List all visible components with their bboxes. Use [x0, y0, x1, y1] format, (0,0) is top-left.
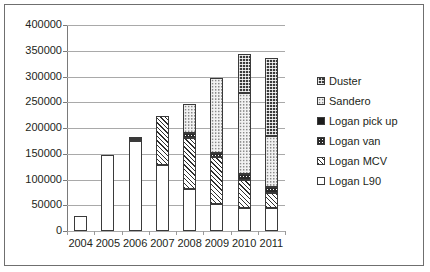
bar-segment-logan-l90[interactable] — [101, 155, 114, 231]
bar-segment-logan-l90[interactable] — [156, 165, 169, 231]
bar-2005[interactable] — [101, 155, 114, 231]
legend-item-logan-l90[interactable]: Logan L90 — [317, 171, 427, 191]
y-tick-mark — [63, 128, 67, 129]
legend-item-logan-van[interactable]: Logan van — [317, 131, 427, 151]
legend-swatch-icon — [317, 137, 325, 145]
y-tick-mark — [63, 25, 67, 26]
y-tick-mark — [63, 102, 67, 103]
x-tick-mark — [67, 231, 68, 235]
x-tick-mark — [94, 231, 95, 235]
legend-swatch-icon — [317, 77, 325, 85]
y-axis-tick-label: 150000 — [25, 148, 62, 159]
gridline — [67, 180, 285, 181]
bar-segment-logan-mcv[interactable] — [183, 138, 196, 188]
bar-segment-logan-van[interactable] — [238, 174, 251, 179]
legend-swatch-icon — [317, 157, 325, 165]
bar-2007[interactable] — [156, 116, 169, 231]
bar-2006[interactable] — [129, 138, 142, 231]
gridline — [67, 205, 285, 206]
gridline — [67, 25, 285, 26]
gridline — [67, 102, 285, 103]
bar-2011[interactable] — [265, 58, 278, 231]
legend-swatch-icon — [317, 177, 325, 185]
y-tick-mark — [63, 154, 67, 155]
legend-label: Logan pick up — [329, 115, 398, 127]
y-axis-labels: 4000003500003000002500002000001500001000… — [5, 5, 62, 251]
bar-2008[interactable] — [183, 104, 196, 231]
gridline — [67, 154, 285, 155]
y-axis-tick-label: 50000 — [31, 199, 62, 210]
bar-segment-logan-van[interactable] — [210, 153, 223, 157]
x-tick-mark — [203, 231, 204, 235]
y-tick-mark — [63, 77, 67, 78]
bar-segment-logan-l90[interactable] — [74, 216, 87, 231]
bar-segment-logan-mcv[interactable] — [238, 180, 251, 208]
legend-swatch-icon — [317, 117, 325, 125]
bar-segment-logan-l90[interactable] — [183, 189, 196, 231]
x-tick-mark — [149, 231, 150, 235]
legend-item-duster[interactable]: Duster — [317, 71, 427, 91]
legend-item-logan-pick-up[interactable]: Logan pick up — [317, 111, 427, 131]
plot-area — [67, 25, 285, 231]
bar-segment-logan-mcv[interactable] — [265, 193, 278, 207]
y-tick-mark — [63, 180, 67, 181]
bar-segment-sandero[interactable] — [210, 78, 223, 153]
bar-segment-logan-l90[interactable] — [210, 204, 223, 231]
bar-segment-sandero[interactable] — [238, 93, 251, 174]
legend-item-sandero[interactable]: Sandero — [317, 91, 427, 111]
gridline — [67, 51, 285, 52]
bar-segment-logan-mcv[interactable] — [129, 139, 142, 141]
y-axis-tick-label: 200000 — [25, 122, 62, 133]
legend-label: Sandero — [329, 95, 371, 107]
chart-legend: DusterSanderoLogan pick upLogan vanLogan… — [317, 71, 427, 191]
bar-2010[interactable] — [238, 54, 251, 231]
bar-segment-logan-l90[interactable] — [238, 208, 251, 231]
y-axis-tick-label: 350000 — [25, 45, 62, 56]
legend-item-logan-mcv[interactable]: Logan MCV — [317, 151, 427, 171]
bar-segment-sandero[interactable] — [265, 136, 278, 187]
bar-segment-logan-mcv[interactable] — [156, 116, 169, 165]
bar-segment-sandero[interactable] — [183, 104, 196, 133]
bar-segment-logan-van[interactable] — [265, 187, 278, 193]
y-axis-tick-label: 300000 — [25, 71, 62, 82]
x-tick-mark — [176, 231, 177, 235]
y-axis-tick-label: 0 — [56, 225, 62, 236]
x-tick-mark — [122, 231, 123, 235]
y-axis-tick-label: 400000 — [25, 19, 62, 30]
bar-segment-duster[interactable] — [265, 58, 278, 136]
bar-segment-duster[interactable] — [238, 54, 251, 93]
x-axis-tick-label: 2011 — [255, 237, 287, 249]
bar-segment-duster[interactable] — [129, 137, 142, 139]
bar-segment-logan-l90[interactable] — [265, 208, 278, 231]
legend-label: Logan van — [329, 135, 380, 147]
bar-segment-logan-mcv[interactable] — [210, 157, 223, 204]
legend-label: Logan L90 — [329, 175, 381, 187]
gridline — [67, 77, 285, 78]
bar-segment-logan-van[interactable] — [183, 133, 196, 138]
legend-swatch-icon — [317, 97, 325, 105]
bar-2009[interactable] — [210, 78, 223, 231]
bar-segment-logan-l90[interactable] — [129, 141, 142, 231]
bar-2004[interactable] — [74, 216, 87, 231]
y-axis-tick-label: 100000 — [25, 174, 62, 185]
x-tick-mark — [285, 231, 286, 235]
y-tick-mark — [63, 205, 67, 206]
gridline — [67, 128, 285, 129]
legend-label: Logan MCV — [329, 155, 387, 167]
x-tick-mark — [231, 231, 232, 235]
chart-frame: 4000003500003000002500002000001500001000… — [4, 4, 424, 266]
y-tick-mark — [63, 51, 67, 52]
y-axis-tick-label: 250000 — [25, 96, 62, 107]
legend-label: Duster — [329, 75, 361, 87]
x-tick-mark — [258, 231, 259, 235]
